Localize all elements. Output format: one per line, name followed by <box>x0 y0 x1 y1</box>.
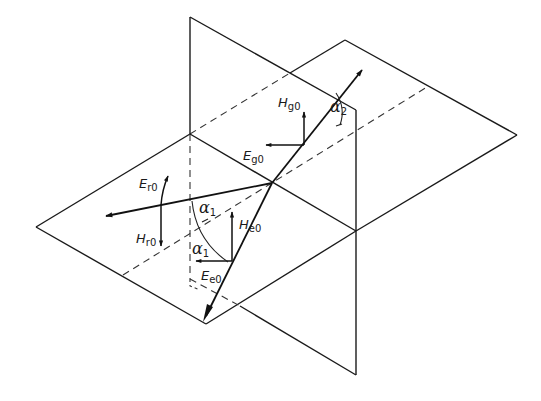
label-H-e0: He0 <box>239 217 261 234</box>
label-alpha1-reflection: α1 <box>199 198 216 218</box>
vertical-plane <box>190 17 356 375</box>
diagram-canvas: Hg0 Eg0 α2 Er0 Hr0 α1 α1 He0 Ee0 <box>0 0 541 401</box>
label-alpha2: α2 <box>330 97 347 117</box>
label-H-g0: Hg0 <box>278 95 301 112</box>
reflected-field-vectors <box>161 176 168 246</box>
E-r0-arrow <box>161 176 168 205</box>
interface-trace-line <box>123 87 427 275</box>
refracted-field-vectors <box>266 112 304 145</box>
label-E-e0: Ee0 <box>201 268 222 285</box>
refracted-ray <box>272 70 362 183</box>
label-E-r0: Er0 <box>139 176 158 193</box>
horizontal-plane <box>36 40 517 324</box>
label-H-r0: Hr0 <box>136 231 156 248</box>
reflected-ray <box>106 183 272 216</box>
label-E-g0: Eg0 <box>243 148 264 165</box>
